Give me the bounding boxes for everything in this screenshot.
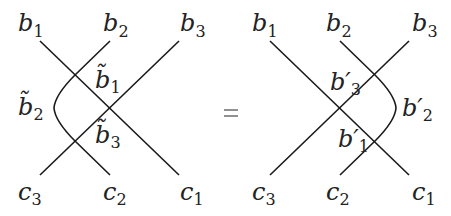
label-b2: b2 <box>103 9 129 41</box>
label-c1: c1 <box>180 178 204 209</box>
braid-equation-diagram: b1 b2 b3 c3 c2 c1 b̃1 b̃2 b̃3 b1 b2 b3 c… <box>0 0 451 216</box>
strand-b2-c2-curved <box>54 41 110 175</box>
label-b2: b2 <box>326 9 352 41</box>
label-c1: c1 <box>412 178 436 209</box>
label-c3: c3 <box>252 178 276 209</box>
label-b3-tilde: b̃3 <box>95 118 121 152</box>
label-b3: b3 <box>412 9 438 41</box>
label-b1: b1 <box>252 9 278 41</box>
label-b1: b1 <box>18 9 44 41</box>
label-b1-prime: b′1 <box>338 125 369 156</box>
label-b1-tilde: b̃1 <box>95 63 121 97</box>
equals-sign <box>224 110 238 116</box>
label-b2-prime: b′2 <box>402 94 433 125</box>
label-b3-prime: b′3 <box>330 68 361 99</box>
label-b3: b3 <box>180 9 206 41</box>
right-diagram: b1 b2 b3 c3 c2 c1 b′3 b′2 b′1 <box>252 9 438 209</box>
label-b2-tilde: b̃2 <box>18 90 44 124</box>
label-c2: c2 <box>103 178 127 209</box>
label-c3: c3 <box>18 178 42 209</box>
left-diagram: b1 b2 b3 c3 c2 c1 b̃1 b̃2 b̃3 <box>18 9 206 209</box>
label-c2: c2 <box>326 178 350 209</box>
